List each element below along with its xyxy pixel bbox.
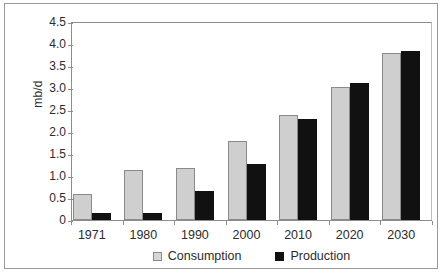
bar-group bbox=[228, 22, 266, 220]
chart-figure: mb/d 4.54.03.53.02.52.01.51.00.50 197119… bbox=[0, 0, 442, 274]
x-axis-tick-mark bbox=[71, 221, 72, 225]
legend-swatch-consumption-icon bbox=[153, 252, 162, 261]
y-axis-tick-label: 0 bbox=[36, 214, 66, 226]
x-axis-tick-mark bbox=[226, 221, 227, 225]
x-axis-tick-label: 1980 bbox=[116, 228, 170, 242]
bar-group bbox=[382, 22, 420, 220]
bar-production bbox=[350, 83, 369, 220]
x-axis-tick-mark bbox=[329, 221, 330, 225]
bar-consumption bbox=[279, 115, 298, 220]
bar-production bbox=[143, 213, 162, 220]
bar-consumption bbox=[228, 141, 247, 220]
x-axis-tick-mark bbox=[380, 221, 381, 225]
y-axis-tick-label: 0.5 bbox=[36, 192, 66, 204]
bar-consumption bbox=[124, 170, 143, 220]
bar-consumption bbox=[73, 194, 92, 220]
bar-group bbox=[124, 22, 162, 220]
x-axis-tick-label: 1990 bbox=[168, 228, 222, 242]
legend-swatch-production-icon bbox=[275, 252, 284, 261]
x-axis-tick-label: 2010 bbox=[271, 228, 325, 242]
y-axis-tick-label: 4.0 bbox=[36, 38, 66, 50]
x-axis-tick-label: 2030 bbox=[374, 228, 428, 242]
chart-legend: ConsumptionProduction bbox=[71, 248, 432, 264]
y-axis-tick-label: 2.5 bbox=[36, 104, 66, 116]
y-axis-tick-label: 4.5 bbox=[36, 16, 66, 28]
y-axis-tick-label: 3.0 bbox=[36, 82, 66, 94]
legend-label: Production bbox=[290, 249, 350, 263]
bar-production bbox=[247, 164, 266, 220]
bar-consumption bbox=[331, 87, 350, 220]
x-axis-tick-mark bbox=[277, 221, 278, 225]
legend-entry: Consumption bbox=[153, 249, 242, 263]
bar-group bbox=[331, 22, 369, 220]
y-axis-tick-label: 1.0 bbox=[36, 170, 66, 182]
bar-production bbox=[401, 51, 420, 220]
x-axis-tick-mark bbox=[123, 221, 124, 225]
y-axis-tick-label: 3.5 bbox=[36, 60, 66, 72]
x-axis-tick-mark bbox=[432, 221, 433, 225]
bar-group bbox=[176, 22, 214, 220]
bar-group bbox=[279, 22, 317, 220]
bar-consumption bbox=[382, 53, 401, 220]
bars-layer bbox=[71, 22, 432, 220]
x-axis-tick-label: 2000 bbox=[220, 228, 274, 242]
x-axis-tick-labels: 1971198019902000201020202030 bbox=[71, 228, 432, 246]
x-axis-tick-label: 2020 bbox=[323, 228, 377, 242]
bar-consumption bbox=[176, 168, 195, 220]
bar-group bbox=[73, 22, 111, 220]
x-axis-tick-mark bbox=[174, 221, 175, 225]
bar-production bbox=[298, 119, 317, 220]
bar-production bbox=[195, 191, 214, 220]
y-axis-tick-label: 2.0 bbox=[36, 126, 66, 138]
x-axis-line bbox=[71, 220, 432, 221]
x-axis-tick-label: 1971 bbox=[65, 228, 119, 242]
legend-label: Consumption bbox=[168, 249, 242, 263]
y-axis-tick-labels: 4.54.03.53.02.52.01.51.00.50 bbox=[36, 16, 66, 226]
y-axis-tick-label: 1.5 bbox=[36, 148, 66, 160]
legend-entry: Production bbox=[275, 249, 350, 263]
bar-production bbox=[92, 213, 111, 220]
